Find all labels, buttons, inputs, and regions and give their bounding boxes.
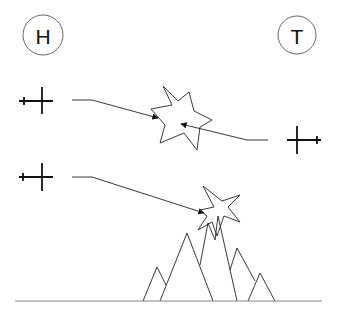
aircraft-right-icon xyxy=(287,126,321,154)
midair-collision-star-icon xyxy=(151,86,212,150)
flight-path-2 xyxy=(181,124,268,140)
h-marker: H xyxy=(23,15,63,55)
flight-path-3 xyxy=(72,177,204,213)
h-label: H xyxy=(35,25,50,48)
ground-impact-star-icon xyxy=(198,186,240,236)
flight-path-1 xyxy=(72,100,158,118)
aircraft-left-top-icon xyxy=(19,87,53,114)
aircraft-left-bottom-icon xyxy=(19,163,53,191)
mountain-range xyxy=(143,216,275,301)
t-label: T xyxy=(291,25,304,48)
t-marker: T xyxy=(278,16,316,54)
diagram-canvas: H T xyxy=(0,0,341,315)
